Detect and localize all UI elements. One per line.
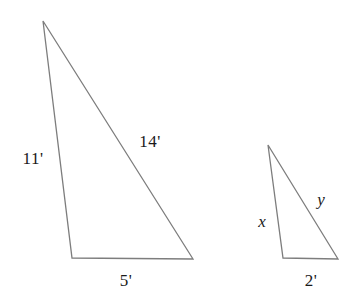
large-triangle-hypotenuse-label: 14' [139,133,161,150]
large-triangle-left-side-label: 11' [23,150,44,167]
large-triangle [43,21,193,259]
small-triangle-base-label: 2' [305,272,318,289]
diagram-canvas: 11' 14' 5' x y 2' [0,0,356,301]
triangles-figure [0,0,356,301]
small-triangle [268,145,338,259]
small-triangle-hypotenuse-label: y [317,191,325,208]
large-triangle-base-label: 5' [120,272,133,289]
small-triangle-left-side-label: x [258,213,266,230]
